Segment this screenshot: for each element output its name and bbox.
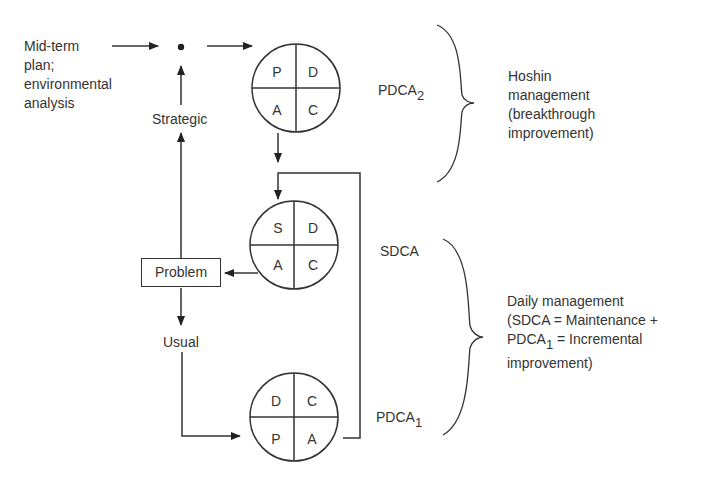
usual-label: Usual xyxy=(163,333,199,352)
daily-description: Daily management (SDCA = Maintenance + P… xyxy=(507,292,658,373)
pdca2-quadrant-br: C xyxy=(303,102,323,118)
pdca2-quadrant-tr: D xyxy=(303,64,323,80)
sdca-quadrant-br: C xyxy=(303,257,323,273)
pdca2-quadrant-tl: P xyxy=(267,64,287,80)
sdca-quadrant-bl: A xyxy=(268,257,288,273)
strategic-label: Strategic xyxy=(152,110,207,129)
daily-brace xyxy=(443,239,483,435)
pdca1-quadrant-tl: D xyxy=(266,393,286,409)
hoshin-brace xyxy=(437,25,474,182)
pdca2-quadrant-bl: A xyxy=(267,102,287,118)
sdca-quadrant-tr: D xyxy=(303,220,323,236)
pdca1-label: PDCA1 xyxy=(376,408,422,432)
pdca2-circle xyxy=(252,44,340,132)
input-label: Mid-term plan; environmental analysis xyxy=(24,37,112,113)
junction-dot xyxy=(178,44,184,50)
sdca-circle xyxy=(250,201,338,289)
pdca1-circle xyxy=(250,373,338,461)
sdca-quadrant-tl: S xyxy=(268,220,288,236)
pdca1-quadrant-tr: C xyxy=(302,393,322,409)
pdca2-label: PDCA2 xyxy=(378,81,424,105)
problem-box: Problem xyxy=(141,258,221,287)
pdca1-quadrant-br: A xyxy=(302,431,322,447)
usual-to-pdca1-line xyxy=(182,352,240,436)
hoshin-description: Hoshin management (breakthrough improvem… xyxy=(508,67,595,143)
pdca1-quadrant-bl: P xyxy=(266,431,286,447)
sdca-label: SDCA xyxy=(380,242,419,261)
